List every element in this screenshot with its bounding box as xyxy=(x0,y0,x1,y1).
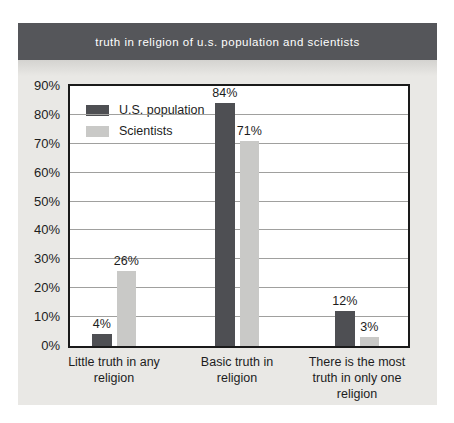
legend: U.S. populationScientists xyxy=(86,103,204,138)
bar-value-label: 26% xyxy=(104,254,148,268)
bar xyxy=(215,103,235,346)
legend-label: Scientists xyxy=(119,124,173,138)
bar-value-label: 84% xyxy=(203,86,247,100)
category-label-line: religion xyxy=(290,386,424,402)
category-label: Basic truth inreligion xyxy=(170,354,304,386)
y-axis-tick-label: 0% xyxy=(18,338,60,354)
y-axis-tick-label: 40% xyxy=(18,222,60,238)
bar-value-label: 71% xyxy=(227,124,271,138)
y-axis-tick-label: 20% xyxy=(18,280,60,296)
bar xyxy=(117,271,137,346)
y-axis-tick-label: 10% xyxy=(18,309,60,325)
gridline xyxy=(70,114,408,115)
figure: truth in religion of u.s. population and… xyxy=(0,0,454,423)
chart-title: truth in religion of u.s. population and… xyxy=(95,36,360,48)
y-axis-tick-label: 30% xyxy=(18,251,60,267)
bar-value-label: 12% xyxy=(323,294,367,308)
category-label-line: religion xyxy=(47,370,181,386)
category-label: Little truth in anyreligion xyxy=(47,354,181,386)
legend-swatch xyxy=(86,126,109,137)
legend-item: U.S. population xyxy=(86,103,204,117)
plot-area: U.S. populationScientists 4%84%12%26%71%… xyxy=(68,84,410,348)
y-axis-tick-label: 70% xyxy=(18,136,60,152)
category-label-line: There is the most xyxy=(290,354,424,370)
bar xyxy=(360,337,380,346)
category-label-line: Little truth in any xyxy=(47,354,181,370)
category-label-line: truth in only one xyxy=(290,370,424,386)
category-label-line: Basic truth in xyxy=(170,354,304,370)
legend-label: U.S. population xyxy=(119,103,204,117)
y-axis-labels: 0%10%20%30%40%50%60%70%80%90% xyxy=(18,23,64,405)
chart-header: truth in religion of u.s. population and… xyxy=(18,23,437,60)
y-axis-tick-label: 60% xyxy=(18,165,60,181)
category-label-line: religion xyxy=(170,370,304,386)
legend-item: Scientists xyxy=(86,124,204,138)
bar xyxy=(240,141,260,346)
bar xyxy=(92,334,112,346)
y-axis-tick-label: 80% xyxy=(18,107,60,123)
category-label: There is the mosttruth in only onereligi… xyxy=(290,354,424,402)
header-shadow xyxy=(18,60,437,76)
bar-value-label: 3% xyxy=(347,320,391,334)
chart-panel: truth in religion of u.s. population and… xyxy=(18,23,437,405)
y-axis-tick-label: 90% xyxy=(18,78,60,94)
y-axis-tick-label: 50% xyxy=(18,194,60,210)
